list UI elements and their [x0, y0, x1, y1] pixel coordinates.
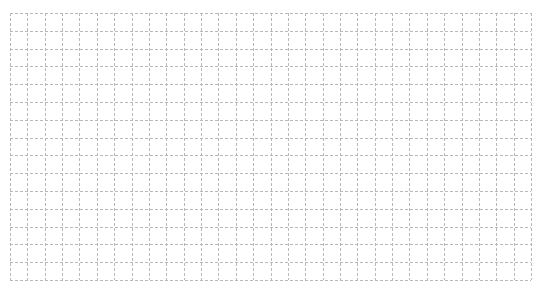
- grid-svg: [10, 13, 531, 280]
- dashed-grid: [10, 13, 531, 280]
- canvas: [0, 0, 540, 296]
